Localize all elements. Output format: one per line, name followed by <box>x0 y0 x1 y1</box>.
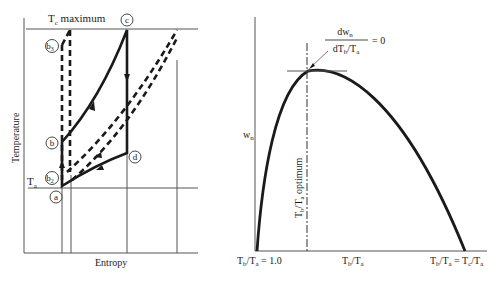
point-b: b <box>46 137 58 149</box>
point-d: d <box>129 151 141 163</box>
work-ratio-diagram: dwn dTb/Ta = 0 wn Tb/Ta optimum Tb/Ta = … <box>237 17 487 268</box>
svg-text:d: d <box>133 152 138 162</box>
ts-diagram: Tc maximum Ta Temperature Entropy c b3 b… <box>10 12 198 268</box>
svg-text:c: c <box>125 15 129 25</box>
derivative-label: dwn dTb/Ta = 0 <box>325 26 385 56</box>
y-axis-label: Temperature <box>10 112 21 163</box>
point-a: a <box>50 191 62 203</box>
x-center-label: Tb/Ta <box>342 255 365 268</box>
arrow-down-cd <box>124 74 130 82</box>
svg-text:b: b <box>50 138 55 148</box>
x-right-label: Tb/Ta = Tc/Ta <box>430 255 484 268</box>
point-b2: b2 <box>46 172 59 185</box>
optimum-label: Tb/Ta optimum <box>293 158 306 218</box>
right-y-label: wn <box>243 129 254 142</box>
point-c: c <box>121 14 133 26</box>
figure: Tc maximum Ta Temperature Entropy c b3 b… <box>0 0 503 281</box>
x-left-label: Tb/Ta = 1.0 <box>237 255 282 268</box>
dashed-cycle <box>62 30 177 180</box>
x-axis-label: Entropy <box>95 257 127 268</box>
svg-text:a: a <box>54 192 58 202</box>
tc-max-label: Tc maximum <box>48 12 106 27</box>
point-b3: b3 <box>46 40 59 53</box>
svg-text:dwn: dwn <box>337 26 353 39</box>
arrow-dashed-down <box>94 152 102 158</box>
svg-text:dTb/Ta: dTb/Ta <box>333 43 361 56</box>
work-curve <box>257 70 465 251</box>
svg-text:= 0: = 0 <box>372 35 385 46</box>
